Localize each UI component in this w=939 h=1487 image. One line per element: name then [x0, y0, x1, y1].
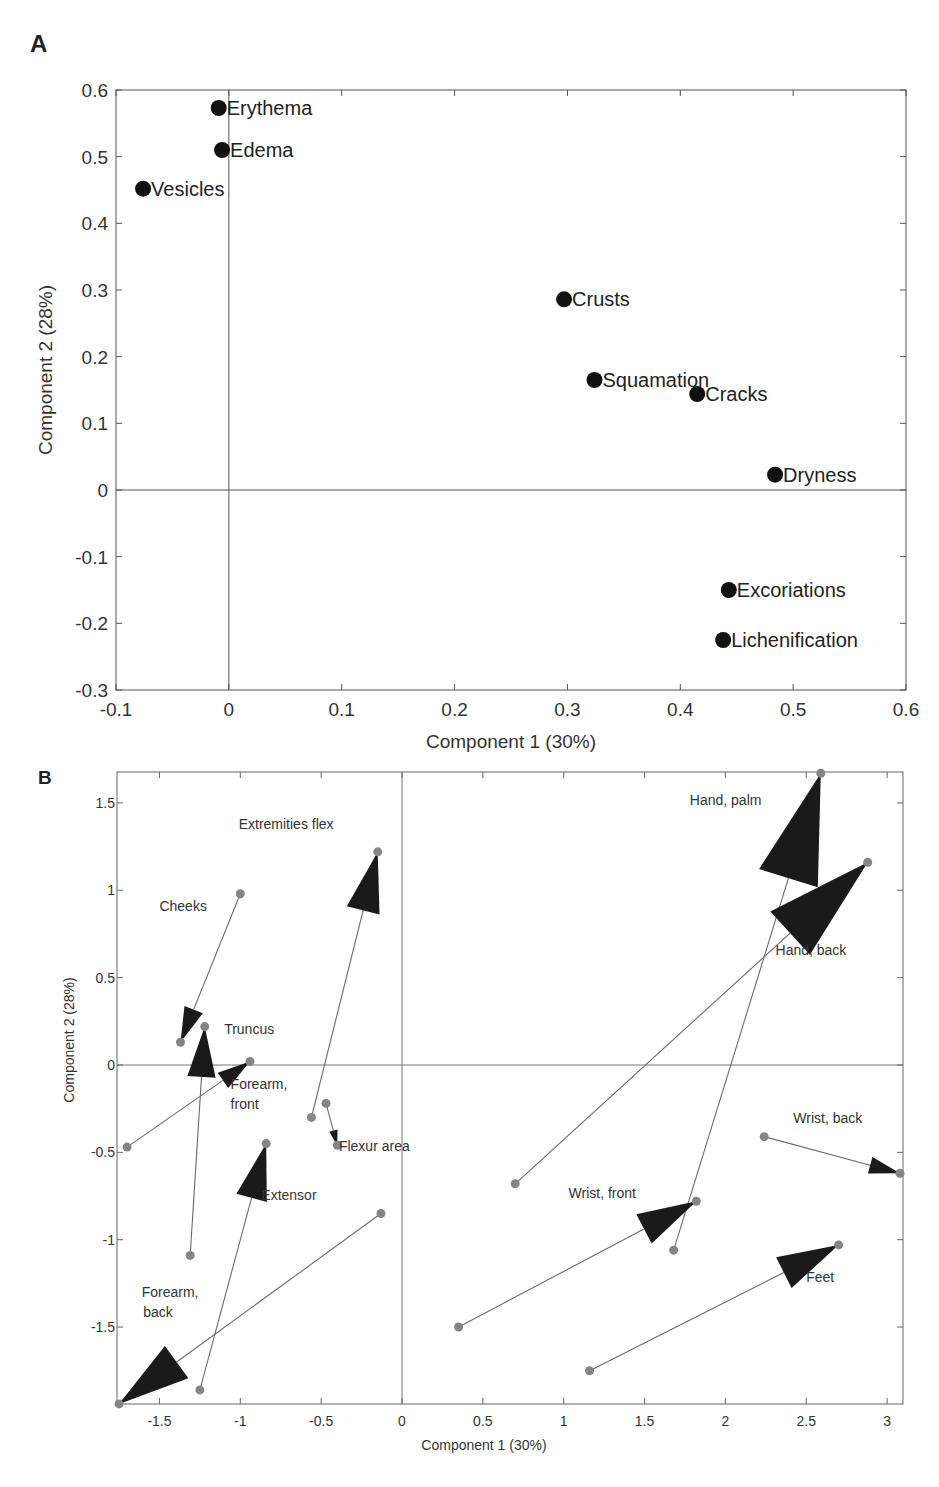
region-label: Forearm, [231, 1076, 288, 1092]
data-label-a: Vesicles [151, 178, 224, 200]
arrow-head [636, 1201, 696, 1243]
region-label: Extremities flex [239, 816, 334, 832]
region-label: Forearm, [142, 1284, 199, 1300]
y-tick-label-a: 0.6 [82, 80, 108, 101]
end-point-dot [262, 1139, 271, 1148]
data-point-a [556, 291, 572, 307]
start-point-dot [236, 889, 245, 898]
x-tick-label-b: 1 [560, 1413, 568, 1429]
y-tick-label-b: 1 [107, 882, 115, 898]
data-point-a [715, 632, 731, 648]
start-point-dot [322, 1099, 331, 1108]
y-axis-label-b: Component 2 (28%) [61, 977, 77, 1102]
end-point-dot [373, 847, 382, 856]
end-point-dot [863, 858, 872, 867]
x-tick-label-b: -0.5 [309, 1413, 333, 1429]
end-point-dot [896, 1169, 905, 1178]
y-tick-label-a: 0.1 [82, 413, 108, 434]
start-point-dot [123, 1143, 132, 1152]
region-label: Wrist, back [793, 1110, 863, 1126]
end-point-dot [816, 769, 825, 778]
end-point-dot [834, 1240, 843, 1249]
start-point-dot [760, 1132, 769, 1141]
y-tick-label-a: -0.3 [75, 680, 108, 701]
y-tick-label-b: -1 [103, 1232, 116, 1248]
chart-a: -0.100.10.20.30.40.50.6-0.3-0.2-0.100.10… [35, 80, 919, 752]
arrow-shaft [200, 1198, 252, 1390]
arrow-shaft [127, 1080, 223, 1147]
data-label-a: Edema [230, 139, 294, 161]
region-label: Truncus [224, 1021, 274, 1037]
arrow-head [187, 1027, 215, 1078]
x-tick-label-b: -1.5 [147, 1413, 171, 1429]
end-point-dot [200, 1022, 209, 1031]
start-point-dot [307, 1113, 316, 1122]
arrow-head [181, 1006, 203, 1042]
x-axis-label-a: Component 1 (30%) [426, 731, 596, 752]
x-tick-label-a: 0.6 [893, 699, 919, 720]
end-point-dot [692, 1197, 701, 1206]
start-point-dot [195, 1385, 204, 1394]
data-label-a: Erythema [227, 97, 313, 119]
x-tick-label-b: -1 [234, 1413, 247, 1429]
region-label: Extensor [261, 1187, 317, 1203]
data-point-a [721, 582, 737, 598]
region-label: Wrist, front [569, 1185, 637, 1201]
end-point-dot [115, 1399, 124, 1408]
y-tick-label-a: -0.2 [75, 613, 108, 634]
region-label: front [231, 1096, 259, 1112]
data-point-a [689, 386, 705, 402]
y-tick-label-b: -0.5 [91, 1144, 115, 1160]
region-label: Hand, back [776, 942, 848, 958]
y-tick-label-a: 0.4 [82, 213, 109, 234]
y-tick-label-a: 0.3 [82, 280, 108, 301]
start-point-dot [585, 1366, 594, 1375]
data-point-a [767, 467, 783, 483]
data-label-a: Lichenification [731, 629, 858, 651]
y-tick-label-b: -1.5 [91, 1319, 115, 1335]
arrow-head [119, 1346, 188, 1404]
y-tick-label-b: 0.5 [96, 970, 116, 986]
data-label-a: Dryness [783, 464, 856, 486]
start-point-dot [376, 1209, 385, 1218]
x-tick-label-a: 0 [224, 699, 235, 720]
arrow-head [759, 773, 821, 887]
data-point-a [211, 100, 227, 116]
arrow-shaft [190, 1077, 201, 1256]
data-point-a [135, 181, 151, 197]
data-label-a: Excoriations [737, 579, 846, 601]
x-tick-label-a: -0.1 [100, 699, 133, 720]
x-tick-label-a: 0.5 [780, 699, 806, 720]
figure: A -0.100.10.20.30.40.50.6-0.3-0.2-0.100.… [0, 0, 939, 1487]
region-label: Feet [806, 1269, 834, 1285]
end-point-dot [246, 1057, 255, 1066]
start-point-dot [669, 1246, 678, 1255]
arrow-shaft [674, 878, 789, 1250]
arrow-shaft [459, 1229, 644, 1327]
x-tick-label-a: 0.3 [554, 699, 580, 720]
start-point-dot [186, 1251, 195, 1260]
region-label: back [143, 1304, 174, 1320]
start-point-dot [511, 1179, 520, 1188]
y-tick-label-b: 0 [107, 1057, 115, 1073]
y-tick-label-a: 0 [97, 480, 108, 501]
y-tick-label-a: 0.5 [82, 147, 108, 168]
panel-label-a: A [30, 30, 47, 57]
region-label: Cheeks [159, 898, 206, 914]
arrow-shaft [311, 910, 363, 1117]
x-tick-label-b: 1.5 [635, 1413, 655, 1429]
arrow-head [868, 1157, 900, 1174]
x-tick-label-b: 3 [883, 1413, 891, 1429]
data-point-a [587, 372, 603, 388]
y-tick-label-a: -0.1 [75, 547, 108, 568]
x-tick-label-a: 0.1 [329, 699, 355, 720]
arrow-shaft [590, 1273, 784, 1371]
start-point-dot [454, 1323, 463, 1332]
arrow-head [347, 852, 380, 915]
y-axis-label-a: Component 2 (28%) [35, 285, 56, 455]
region-label: Hand, palm [690, 792, 762, 808]
end-point-dot [176, 1038, 185, 1047]
x-tick-label-a: 0.2 [441, 699, 467, 720]
y-tick-label-b: 1.5 [96, 795, 116, 811]
chart-b: -1.5-1-0.500.511.522.53-1.5-1-0.500.511.… [61, 769, 905, 1453]
